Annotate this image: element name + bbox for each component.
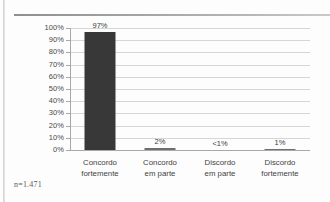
- y-axis-tick-label: 90%: [0, 36, 64, 44]
- x-axis-label-line: Discordo: [190, 158, 250, 169]
- bar: [145, 148, 176, 150]
- x-axis-category-label: Concordofortemente: [70, 158, 130, 179]
- bar-value-label: 97%: [92, 22, 107, 30]
- page-canvas: 0%10%20%30%40%50%60%70%80%90%100% 97%2%<…: [0, 0, 330, 202]
- x-axis-label-line: Concordo: [70, 158, 130, 169]
- y-axis-tick-label: 50%: [0, 85, 64, 93]
- x-axis-label-line: em parte: [190, 169, 250, 180]
- bar-value-label: 2%: [155, 138, 166, 146]
- x-axis-category-label: Concordoem parte: [130, 158, 190, 179]
- x-axis-labels: ConcordofortementeConcordoem parteDiscor…: [70, 158, 310, 188]
- x-axis-label-line: fortemente: [250, 169, 310, 180]
- y-axis-tick-label: 10%: [0, 134, 64, 142]
- y-axis-tick-label: 20%: [0, 122, 64, 130]
- x-axis-line: [70, 150, 310, 151]
- sample-size-footnote: n=1.471: [14, 180, 42, 189]
- bar-slot: 97%: [70, 28, 130, 150]
- bar-slot: 2%: [130, 28, 190, 150]
- y-axis-tick-label: 80%: [0, 48, 64, 56]
- bar: [85, 32, 116, 150]
- y-axis-tick-label: 70%: [0, 61, 64, 69]
- x-axis-label-line: Concordo: [130, 158, 190, 169]
- y-axis-tick-label: 100%: [0, 24, 64, 32]
- x-axis-category-label: Discordoem parte: [190, 158, 250, 179]
- bar-series: 97%2%<1%1%: [70, 28, 310, 150]
- x-axis-category-label: Discordofortemente: [250, 158, 310, 179]
- x-axis-label-line: fortemente: [70, 169, 130, 180]
- y-axis-tick-label: 40%: [0, 97, 64, 105]
- y-axis-tick-label: 30%: [0, 109, 64, 117]
- bar-slot: 1%: [250, 28, 310, 150]
- bar: [265, 149, 296, 150]
- y-axis-labels: 0%10%20%30%40%50%60%70%80%90%100%: [0, 18, 64, 158]
- bar-value-label: 1%: [275, 139, 286, 147]
- y-axis-tick-label: 60%: [0, 73, 64, 81]
- x-axis-label-line: Discordo: [250, 158, 310, 169]
- bar-chart: 0%10%20%30%40%50%60%70%80%90%100% 97%2%<…: [0, 18, 330, 158]
- bar-value-label: <1%: [212, 140, 227, 148]
- x-axis-label-line: em parte: [130, 169, 190, 180]
- top-horizontal-rule: [14, 14, 330, 16]
- bar-slot: <1%: [190, 28, 250, 150]
- y-axis-tick-label: 0%: [0, 146, 64, 154]
